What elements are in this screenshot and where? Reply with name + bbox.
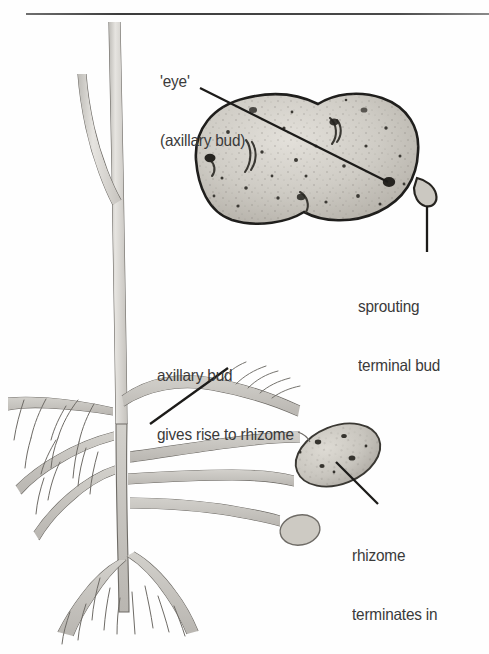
label-axillary-line1: axillary bud — [157, 366, 294, 386]
developing-tuber — [278, 512, 323, 548]
label-sprouting-line2: terminal bud — [358, 356, 440, 376]
small-swollen-tuber — [286, 412, 389, 499]
label-rhizome-line2: terminates in — [352, 605, 440, 625]
label-sprouting-terminal-bud: sprouting terminal bud — [358, 258, 440, 414]
sprouting-terminal-bud — [414, 178, 436, 206]
label-eye-line1: 'eye' — [160, 72, 245, 92]
label-sprouting-line1: sprouting — [358, 297, 440, 317]
label-eye: 'eye' (axillary bud) — [160, 33, 245, 189]
label-rhizome-tuber: rhizome terminates in swollen tuber (the… — [352, 507, 440, 654]
label-axillary-line2: gives rise to rhizome — [157, 425, 294, 445]
label-axillary-bud-rhizome: axillary bud gives rise to rhizome — [157, 327, 294, 483]
label-eye-line2: (axillary bud) — [160, 131, 245, 151]
label-rhizome-line1: rhizome — [352, 546, 440, 566]
upright-stem — [78, 22, 127, 424]
figure-canvas: 'eye' (axillary bud) sprouting terminal … — [0, 0, 489, 654]
